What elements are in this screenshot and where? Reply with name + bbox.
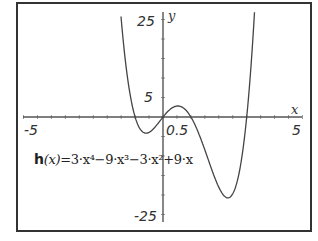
function-curve <box>121 12 255 198</box>
x-tick-label-neg5: -5 <box>24 123 38 137</box>
x-tick-label-0.5: 0.5 <box>166 123 188 137</box>
function-body: =3·x⁴−9·x³−3·x²+9·x <box>60 152 192 167</box>
function-name: h <box>34 151 44 167</box>
plot-area <box>0 0 318 241</box>
function-formula: h(x)=3·x⁴−9·x³−3·x²+9·x <box>34 151 193 167</box>
y-axis-label: y <box>168 9 175 22</box>
y-tick-label-neg25: -25 <box>134 209 157 223</box>
function-args: (x) <box>44 152 61 167</box>
x-axis-label: x <box>291 103 298 116</box>
x-tick-label-5: 5 <box>292 123 301 137</box>
y-tick-label-25: 25 <box>137 14 155 28</box>
y-tick-label-5: 5 <box>144 90 153 104</box>
